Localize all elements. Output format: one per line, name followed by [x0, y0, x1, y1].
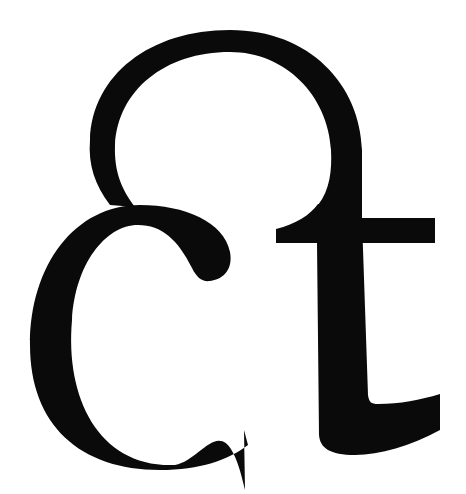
t-stem — [317, 206, 440, 455]
ct-ligature-graphic — [0, 0, 466, 494]
ligature-loop — [90, 30, 362, 207]
glyph-shapes — [30, 30, 440, 490]
c-bowl — [30, 205, 248, 490]
